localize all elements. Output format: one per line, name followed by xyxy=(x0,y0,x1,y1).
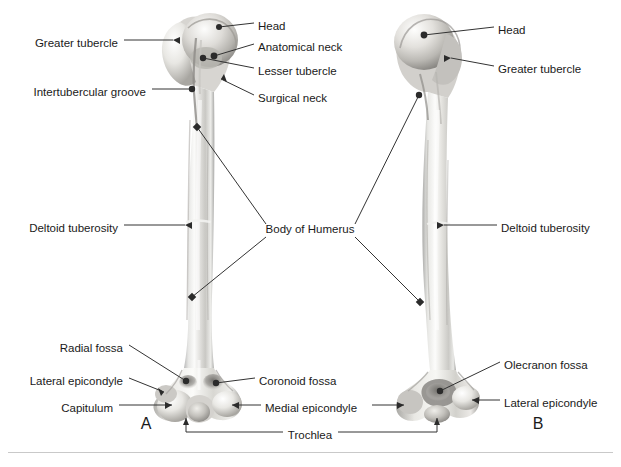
label-medial-epicondyle-text: Medial epicondyle xyxy=(265,402,357,414)
label-radial-fossa: Radial fossa xyxy=(60,343,123,355)
label-head-a: Head xyxy=(258,21,286,33)
label-greater-tubercle-a-text: Greater tubercle xyxy=(35,37,118,49)
leader-radial-fossa xyxy=(129,345,186,381)
label-coronoid-fossa: Coronoid fossa xyxy=(259,376,336,388)
label-lateral-epicondyle-a: Lateral epicondyle xyxy=(30,376,123,388)
panel-a-letter: A xyxy=(141,415,152,433)
leader-trochlea-right xyxy=(338,418,437,432)
label-capitulum-text: Capitulum xyxy=(61,402,113,414)
humerus-anatomy-figure: Head Anatomical neck Lesser tubercle Sur… xyxy=(0,0,621,467)
label-lateral-epicondyle-b: Lateral epicondyle xyxy=(504,398,597,410)
label-trochlea: Trochlea xyxy=(288,430,332,442)
humerus-b-posterior xyxy=(394,14,480,423)
label-anatomical-neck: Anatomical neck xyxy=(258,42,342,54)
label-lateral-epicondyle-b-text: Lateral epicondyle xyxy=(504,397,597,409)
label-surgical-neck-text: Surgical neck xyxy=(258,92,327,104)
label-coronoid-fossa-text: Coronoid fossa xyxy=(259,375,336,387)
label-greater-tubercle-b: Greater tubercle xyxy=(498,64,581,76)
label-greater-tubercle-a: Greater tubercle xyxy=(35,38,118,50)
label-trochlea-text: Trochlea xyxy=(288,429,332,441)
label-head-b-text: Head xyxy=(498,24,526,36)
label-head-a-text: Head xyxy=(258,20,286,32)
label-anatomical-neck-text: Anatomical neck xyxy=(258,41,342,53)
leader-body-lower-right xyxy=(355,237,420,302)
label-surgical-neck: Surgical neck xyxy=(258,93,327,105)
label-intertubercular-groove-text: Intertubercular groove xyxy=(33,86,146,98)
footer-divider xyxy=(8,452,613,453)
label-intertubercular-groove: Intertubercular groove xyxy=(33,87,146,99)
label-lateral-epicondyle-a-text: Lateral epicondyle xyxy=(30,375,123,387)
label-greater-tubercle-b-text: Greater tubercle xyxy=(498,63,581,75)
humerus-a-anterior xyxy=(153,13,242,423)
label-deltoid-tuberosity-b-text: Deltoid tuberosity xyxy=(501,222,590,234)
label-deltoid-tuberosity-a-text: Deltoid tuberosity xyxy=(29,222,118,234)
label-olecranon-fossa-text: Olecranon fossa xyxy=(504,359,588,371)
label-medial-epicondyle: Medial epicondyle xyxy=(265,403,357,415)
label-deltoid-tuberosity-a: Deltoid tuberosity xyxy=(29,223,118,235)
label-head-b: Head xyxy=(498,25,526,37)
label-lesser-tubercle-text: Lesser tubercle xyxy=(258,65,337,77)
panel-a-letter-text: A xyxy=(141,415,152,432)
leader-body-upper-right xyxy=(355,95,419,224)
label-capitulum: Capitulum xyxy=(61,403,113,415)
panel-b-letter: B xyxy=(533,415,544,433)
panel-b-letter-text: B xyxy=(533,415,544,432)
label-radial-fossa-text: Radial fossa xyxy=(60,342,123,354)
label-lesser-tubercle: Lesser tubercle xyxy=(258,66,337,78)
label-deltoid-tuberosity-b: Deltoid tuberosity xyxy=(501,223,590,235)
label-body-of-humerus-text: Body of Humerus xyxy=(266,223,355,235)
label-body-of-humerus: Body of Humerus xyxy=(266,224,355,236)
label-olecranon-fossa: Olecranon fossa xyxy=(504,360,588,372)
